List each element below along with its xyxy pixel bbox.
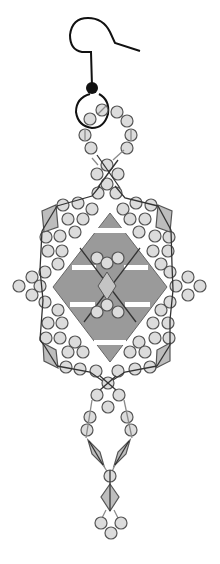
- top-loop-beads: [79, 104, 137, 154]
- beading-diagram: [0, 0, 220, 564]
- dangle: [81, 376, 137, 539]
- top-junction: [91, 150, 124, 190]
